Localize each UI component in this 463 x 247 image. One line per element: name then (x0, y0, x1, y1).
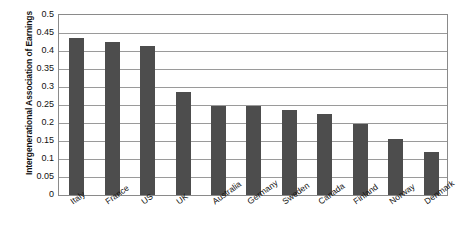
bar-chart: Intergenerational Association of Earning… (0, 0, 463, 247)
y-tick-label: 0.3 (0, 82, 54, 91)
y-tick-label: 0.15 (0, 136, 54, 145)
bar (105, 42, 120, 195)
bars-layer (59, 15, 447, 195)
y-tick-label: 0.1 (0, 154, 54, 163)
y-tick-label: 0.25 (0, 100, 54, 109)
bar (69, 38, 84, 195)
bar (246, 106, 261, 195)
y-tick-label: 0.05 (0, 172, 54, 181)
bar (317, 114, 332, 195)
y-tick-label: 0.5 (0, 10, 54, 19)
bar (388, 139, 403, 195)
y-tick-label: 0.35 (0, 64, 54, 73)
y-tick-label: 0.45 (0, 28, 54, 37)
bar (140, 46, 155, 195)
y-axis-tick-labels: 0.50.450.40.350.30.250.20.150.10.050 (0, 0, 54, 247)
bar (282, 110, 297, 195)
y-tick-label: 0 (0, 190, 54, 199)
bar (353, 124, 368, 195)
y-tick-label: 0.4 (0, 46, 54, 55)
bar (211, 106, 226, 195)
x-axis-tick-labels: ItalyFranceUSUKAustraliaGermanySwedenCan… (58, 197, 448, 247)
bar (176, 92, 191, 195)
y-tick-label: 0.2 (0, 118, 54, 127)
